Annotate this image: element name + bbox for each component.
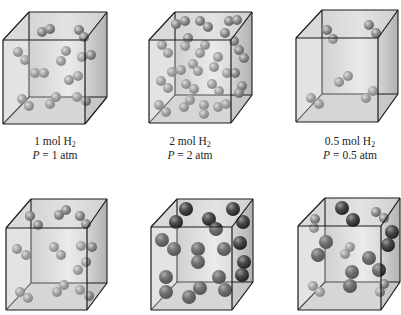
moles-text: 1 mol H2: [0, 134, 115, 148]
hydrogen-atom: [180, 16, 190, 26]
hydrogen-atom: [87, 242, 97, 252]
hydrogen-atom: [232, 15, 242, 25]
helium-atom: [235, 268, 249, 282]
box-2-label: 2 mol H2 P = 2 atm: [130, 134, 250, 162]
pressure-text: P = 0.5 atm: [290, 148, 401, 162]
box-2: [149, 12, 252, 123]
pressure-text: P = 2 atm: [130, 148, 250, 162]
hydrogen-atom: [371, 207, 381, 217]
helium-atom: [226, 202, 240, 216]
front-face: [149, 40, 231, 123]
helium-atom: [237, 255, 251, 269]
front-face: [296, 38, 378, 122]
front-face: [3, 40, 85, 124]
helium-atom: [385, 225, 399, 239]
hydrogen-atom: [310, 214, 320, 224]
helium-atom: [335, 201, 349, 215]
box-3-label: 0.5 mol H2 P = 0.5 atm: [290, 134, 401, 162]
box-4: [6, 199, 107, 310]
hydrogen-atom: [322, 25, 332, 35]
helium-atom: [236, 215, 250, 229]
figure-canvas: 1 mol H2 P = 1 atm 2 mol H2 P = 2 atm 0.…: [0, 0, 401, 315]
front-face: [298, 226, 381, 310]
box-3: [296, 10, 398, 122]
hydrogen-atom: [234, 88, 244, 98]
hydrogen-atom: [203, 22, 213, 32]
hydrogen-atom: [171, 19, 181, 29]
helium-atom: [179, 202, 193, 216]
front-face: [151, 227, 232, 310]
hydrogen-atom: [86, 50, 96, 60]
box-6: [298, 198, 400, 310]
front-face: [6, 228, 87, 310]
moles-text: 2 mol H2: [130, 134, 250, 148]
hydrogen-atom: [364, 20, 374, 30]
hydrogen-atom: [25, 211, 35, 221]
hydrogen-atom: [195, 16, 205, 26]
helium-atom: [346, 213, 360, 227]
hydrogen-atom: [61, 205, 71, 215]
hydrogen-atom: [45, 24, 55, 34]
hydrogen-atom: [239, 53, 249, 63]
hydrogen-atom: [220, 28, 230, 38]
box-1-label: 1 mol H2 P = 1 atm: [0, 134, 115, 162]
box-1: [3, 12, 107, 124]
moles-text: 0.5 mol H2: [290, 134, 401, 148]
box-5: [151, 199, 253, 310]
helium-atom: [233, 236, 247, 250]
helium-atom: [381, 238, 395, 252]
hydrogen-atom: [75, 211, 85, 221]
pressure-text: P = 1 atm: [0, 148, 115, 162]
